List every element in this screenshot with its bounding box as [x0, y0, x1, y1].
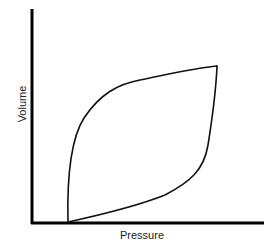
- upper-limb-curve: [68, 66, 217, 222]
- x-axis-label: Pressure: [120, 229, 164, 241]
- lower-limb-curve: [68, 66, 217, 222]
- y-axis-label: Volume: [16, 74, 28, 134]
- pv-loop-chart: [0, 0, 274, 247]
